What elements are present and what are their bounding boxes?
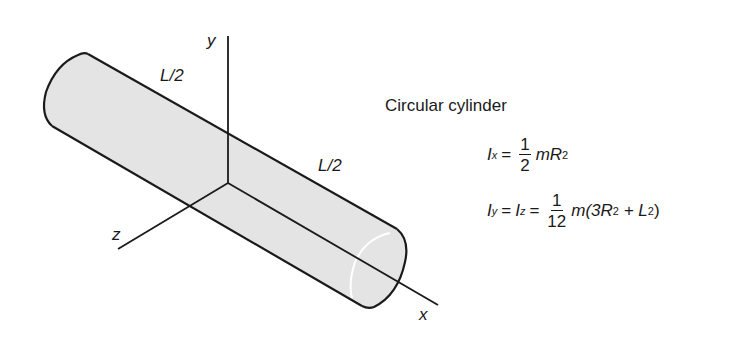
eq-iyz-rhs-b: + L	[619, 201, 648, 221]
eq-iy-sub: y	[492, 205, 498, 217]
x-axis-label: x	[419, 306, 428, 323]
eq-ix-rhs: mR	[536, 145, 562, 165]
eq-iyz-numerator: 1	[551, 192, 562, 211]
eq-iz-sub: z	[520, 205, 526, 217]
eq-iyz-rhs-c: )	[654, 201, 660, 221]
y-axis-label: y	[207, 32, 216, 49]
eq-ix-sub: x	[492, 149, 498, 161]
equation-iyz: Iy = Iz = 1 12 m(3R2 + L2)	[487, 192, 660, 230]
eq-ix-sup: 2	[562, 149, 568, 161]
length-label-right: L/2	[318, 157, 342, 174]
equation-ix: Ix = 1 2 mR2	[487, 136, 568, 174]
eq-iyz-equals-2: =	[529, 201, 539, 221]
eq-ix-denominator: 2	[520, 155, 529, 174]
z-axis-label: z	[112, 226, 121, 243]
eq-ix-numerator: 1	[519, 136, 530, 155]
eq-ix-equals: =	[501, 145, 511, 165]
eq-iyz-rhs-a: m(3R	[571, 201, 613, 221]
eq-ix-fraction: 1 2	[519, 136, 530, 174]
eq-iyz-fraction: 1 12	[547, 192, 566, 230]
length-label-left: L/2	[160, 67, 184, 84]
cylinder-diagram	[0, 0, 731, 344]
figure-title: Circular cylinder	[385, 96, 507, 116]
eq-iyz-equals-1: =	[501, 201, 511, 221]
eq-iyz-denominator: 12	[547, 211, 566, 230]
